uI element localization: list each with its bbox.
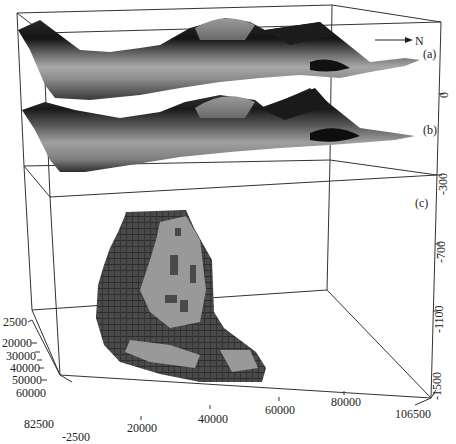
y-tick-50000: 50000: [12, 373, 42, 387]
x-tick-20000: 20000: [127, 421, 157, 435]
x-tick-80000: 80000: [331, 395, 361, 409]
y-tick-20000: 20000: [2, 336, 32, 350]
v-tick-700: -700: [434, 241, 448, 263]
x-tick-106500: 106500: [395, 407, 431, 421]
y-tick-82500: 82500: [24, 417, 54, 431]
panel-label-c: (c): [415, 196, 428, 210]
surface-b: [22, 88, 415, 172]
x-tick-60000: 60000: [265, 403, 295, 417]
y-tick-60000: 60000: [16, 386, 46, 400]
panel-label-a: (a): [423, 47, 436, 61]
surface-a: [18, 18, 420, 100]
v-tick-1100: -1100: [432, 305, 446, 333]
v-tick-0: 0: [437, 92, 451, 98]
v-tick-300: -300: [436, 173, 450, 195]
x-tick-neg2500: -2500: [62, 430, 90, 444]
north-arrow: N: [375, 34, 424, 48]
arrow-right-icon: [405, 37, 413, 43]
3d-geological-model-figure: (a) (b) N (c) 0 -300 -700 -1100 -1500: [0, 0, 456, 444]
v-tick-1500: -1500: [430, 372, 444, 400]
x-tick-40000: 40000: [198, 412, 228, 426]
north-label: N: [415, 34, 424, 48]
y-tick-2500: 2500: [3, 315, 27, 329]
panel-label-b: (b): [423, 123, 437, 137]
